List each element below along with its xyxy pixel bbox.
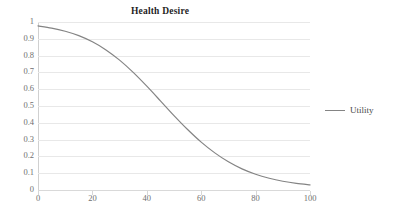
x-axis-tick-mark [201, 191, 202, 195]
y-axis-tick-label: 0.7 [4, 67, 34, 76]
y-axis-tick-label: 0 [4, 185, 34, 194]
legend-line-marker [325, 110, 345, 112]
x-axis-tick-mark [256, 191, 257, 195]
x-axis-tick-mark [92, 191, 93, 195]
y-axis-tick-labels: 00.10.20.30.40.50.60.70.80.91 [0, 22, 34, 190]
y-axis-tick-label: 0.9 [4, 34, 34, 43]
y-axis-tick-label: 0.4 [4, 118, 34, 127]
y-axis-tick-label: 0.6 [4, 84, 34, 93]
y-axis-tick-label: 0.2 [4, 151, 34, 160]
y-axis-tick-label: 0.8 [4, 51, 34, 60]
y-axis-tick-label: 0.5 [4, 101, 34, 110]
y-axis-tick-label: 0.1 [4, 168, 34, 177]
series-utility-line [38, 22, 310, 190]
chart-legend: Utility [325, 105, 374, 116]
legend-label-utility: Utility [350, 105, 374, 116]
y-axis-tick-label: 1 [4, 17, 34, 26]
x-axis-tick-mark [147, 191, 148, 195]
x-axis-tick-mark [310, 191, 311, 195]
gridline [38, 190, 310, 191]
plot-area [38, 22, 310, 190]
y-axis-tick-label: 0.3 [4, 135, 34, 144]
x-axis-tick-mark [38, 191, 39, 195]
x-axis-tick-labels: 020406080100 [38, 193, 310, 207]
chart-title: Health Desire [0, 5, 320, 17]
chart-container: Health Desire 00.10.20.30.40.50.60.70.80… [0, 0, 399, 222]
